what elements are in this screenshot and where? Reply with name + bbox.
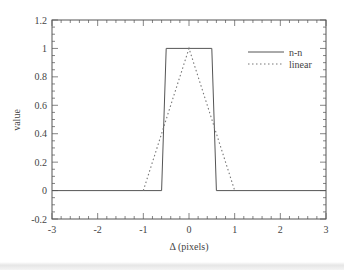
x-tick-label: 1 bbox=[232, 224, 237, 235]
x-tick-label: 3 bbox=[324, 224, 329, 235]
y-axis-label: value bbox=[11, 109, 22, 131]
x-tick-labels: -3-2-10123 bbox=[48, 224, 329, 235]
x-tick-label: -2 bbox=[93, 224, 101, 235]
y-tick-label: 0.2 bbox=[35, 157, 48, 168]
x-axis-label: Δ (pixels) bbox=[170, 241, 209, 253]
y-tick-label: 0.8 bbox=[35, 71, 48, 82]
axis-ticks bbox=[52, 20, 326, 219]
x-tick-label: -3 bbox=[48, 224, 56, 235]
x-tick-label: -1 bbox=[139, 224, 147, 235]
x-tick-label: 0 bbox=[187, 224, 192, 235]
legend-label: linear bbox=[289, 59, 312, 70]
series-linear bbox=[143, 48, 234, 190]
y-tick-label: 1.2 bbox=[35, 15, 48, 26]
data-series bbox=[52, 48, 326, 190]
legend-label: n-n bbox=[289, 47, 302, 58]
window-bottom-edge bbox=[0, 262, 344, 270]
series-n-n bbox=[52, 48, 326, 190]
y-tick-label: 0.4 bbox=[35, 128, 48, 139]
plot-frame bbox=[52, 20, 326, 219]
y-tick-label: 1 bbox=[42, 43, 47, 54]
y-tick-labels: -0.200.20.40.60.811.2 bbox=[31, 15, 47, 225]
y-tick-label: 0.6 bbox=[35, 100, 48, 111]
y-tick-label: 0 bbox=[42, 185, 47, 196]
x-tick-label: 2 bbox=[278, 224, 283, 235]
chart: -0.200.20.40.60.811.2 -3-2-10123 Δ (pixe… bbox=[0, 0, 344, 270]
legend: n-nlinear bbox=[248, 47, 312, 70]
y-tick-label: -0.2 bbox=[31, 214, 47, 225]
